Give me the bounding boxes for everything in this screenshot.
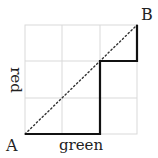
end-label: B <box>141 5 153 24</box>
lattice-path-diagram: A B green red <box>0 0 158 158</box>
y-axis-label: red <box>7 67 25 93</box>
start-label: A <box>5 136 18 155</box>
x-axis-label: green <box>59 136 104 154</box>
diagonal-line <box>25 25 137 134</box>
